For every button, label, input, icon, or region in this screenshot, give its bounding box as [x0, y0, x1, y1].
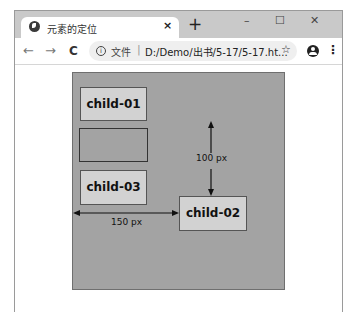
page-content: child-01 child-03 child-02 150 px 100 px	[15, 65, 342, 312]
parent-container: child-01 child-03 child-02 150 px 100 px	[72, 72, 285, 290]
address-separator: |	[137, 43, 141, 56]
address-bar[interactable]: i 文件 | D:/Demo/出书/5-17/5-17.ht... ☆	[89, 41, 297, 61]
info-icon[interactable]: i	[96, 46, 106, 56]
vertical-offset-label: 100 px	[196, 153, 227, 163]
horizontal-offset-label: 150 px	[111, 217, 142, 227]
back-icon[interactable]: ←	[23, 43, 34, 58]
tab-close-icon[interactable]: ×	[163, 19, 172, 32]
tab-title: 元素的定位	[47, 21, 97, 36]
forward-icon[interactable]: →	[45, 43, 56, 58]
bookmark-star-icon[interactable]: ☆	[281, 43, 291, 56]
reload-icon[interactable]: C	[69, 44, 78, 58]
tab-active[interactable]: 元素的定位 ×	[21, 17, 179, 38]
menu-icon[interactable]: ⋮	[327, 43, 339, 57]
browser-window: 元素的定位 × + – ☐ ✕ ← → C i 文件 | D:/Demo/出书/…	[14, 10, 343, 312]
security-label: 文件	[111, 44, 131, 59]
browser-toolbar: ← → C i 文件 | D:/Demo/出书/5-17/5-17.ht... …	[15, 38, 342, 65]
new-tab-button[interactable]: +	[188, 14, 202, 34]
close-window-icon[interactable]: ✕	[310, 14, 319, 27]
account-icon[interactable]	[307, 45, 319, 57]
globe-icon	[29, 21, 40, 32]
maximize-icon[interactable]: ☐	[275, 14, 285, 27]
tab-bar: 元素的定位 × + – ☐ ✕	[15, 11, 342, 38]
dimension-arrows	[73, 73, 286, 291]
url-text[interactable]: D:/Demo/出书/5-17/5-17.ht...	[145, 44, 288, 59]
minimize-icon[interactable]: –	[244, 14, 250, 27]
